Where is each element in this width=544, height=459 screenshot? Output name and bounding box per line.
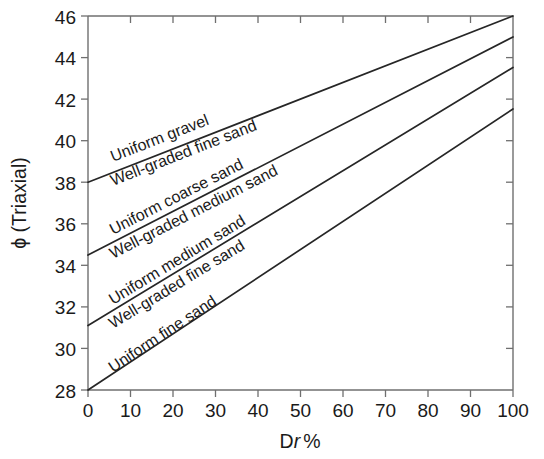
y-tick-label: 40 xyxy=(55,131,76,152)
x-tick-label: 60 xyxy=(332,400,353,421)
x-axis-title-suffix: % xyxy=(303,430,320,452)
series-line-uniform-medium-sand xyxy=(88,68,513,326)
y-tick-label: 36 xyxy=(55,214,76,235)
x-tick-label: 100 xyxy=(497,400,529,421)
y-tick-label: 42 xyxy=(55,90,76,111)
triaxial-friction-angle-chart: 46 44 42 40 38 36 34 32 30 28 0 10 20 30… xyxy=(0,0,544,459)
x-axis-title: Dr% xyxy=(280,430,321,452)
x-tick-label: 70 xyxy=(375,400,396,421)
y-tick-label: 44 xyxy=(55,48,77,69)
y-tick-marks-right xyxy=(506,58,513,349)
x-tick-marks-top xyxy=(131,16,471,23)
y-tick-marks xyxy=(81,16,88,390)
x-axis-title-italic-r: r xyxy=(294,430,302,452)
y-tick-label: 30 xyxy=(55,339,76,360)
y-tick-label: 38 xyxy=(55,173,76,194)
x-tick-label: 10 xyxy=(120,400,141,421)
y-tick-labels: 46 44 42 40 38 36 34 32 30 28 xyxy=(55,7,77,402)
x-tick-marks xyxy=(88,390,513,397)
x-tick-label: 90 xyxy=(460,400,481,421)
y-tick-label: 46 xyxy=(55,7,76,28)
x-tick-label: 0 xyxy=(83,400,94,421)
x-tick-label: 20 xyxy=(162,400,183,421)
x-tick-label: 40 xyxy=(247,400,268,421)
figure-container: 46 44 42 40 38 36 34 32 30 28 0 10 20 30… xyxy=(0,0,544,459)
y-axis-title-text: (Triaxial) xyxy=(8,157,30,238)
x-axis-title-prefix: D xyxy=(280,430,294,452)
y-tick-label: 28 xyxy=(55,381,76,402)
y-axis-title-symbol: ϕ xyxy=(8,238,30,249)
y-axis-title: ϕ (Triaxial) xyxy=(8,157,30,248)
curve-annotations: Uniform gravel Well-graded fine sand Uni… xyxy=(105,111,280,375)
x-tick-labels: 0 10 20 30 40 50 60 70 80 90 100 xyxy=(83,400,529,421)
y-tick-label: 32 xyxy=(55,297,76,318)
x-tick-label: 80 xyxy=(417,400,438,421)
x-tick-label: 50 xyxy=(290,400,311,421)
y-tick-label: 34 xyxy=(55,256,77,277)
x-tick-label: 30 xyxy=(205,400,226,421)
